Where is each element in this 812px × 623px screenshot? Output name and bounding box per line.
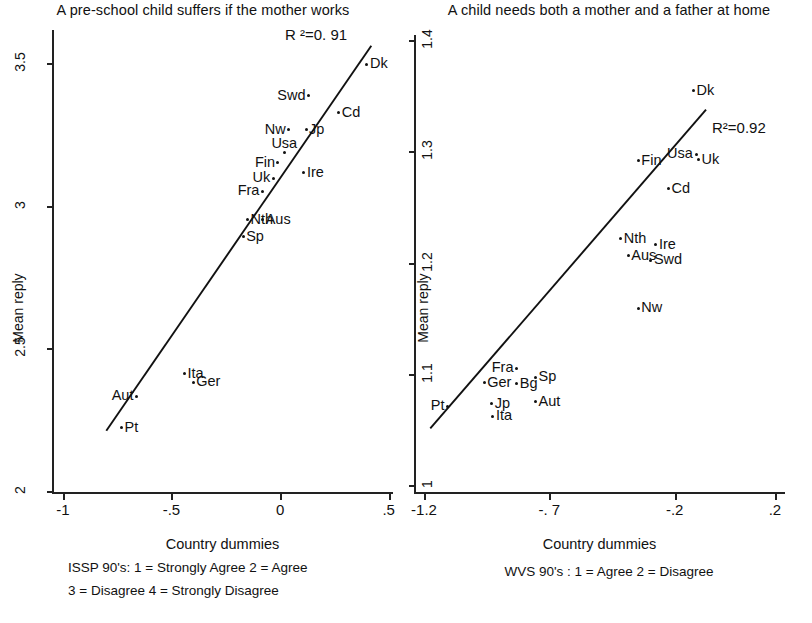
- data-point-label: Fra: [492, 360, 514, 375]
- data-point-label: Pt: [431, 398, 445, 413]
- data-point-label: Nth: [624, 231, 647, 246]
- data-point-label: Usa: [271, 136, 297, 151]
- data-point-label: Fra: [238, 183, 260, 198]
- data-point-label: Cd: [342, 105, 361, 120]
- data-point-label: Sp: [246, 229, 264, 244]
- data-point-label: Cd: [671, 181, 690, 196]
- data-point-label: Swd: [654, 252, 682, 267]
- data-point-marker: [261, 190, 264, 193]
- data-point-label: Aus: [631, 248, 656, 263]
- data-point-marker: [695, 153, 698, 156]
- two-panel-scatter-figure: A pre-school child suffers if the mother…: [0, 0, 812, 623]
- data-point-marker: [637, 307, 640, 310]
- panel-right: A child needs both a mother and a father…: [406, 0, 812, 623]
- data-point-marker: [242, 235, 245, 238]
- data-point-label: Sp: [539, 369, 557, 384]
- data-point-label: Pt: [125, 420, 139, 435]
- panel-left: A pre-school child suffers if the mother…: [0, 0, 406, 623]
- data-point-marker: [272, 177, 275, 180]
- data-point-marker: [307, 94, 310, 97]
- data-point-label: Ire: [659, 237, 676, 252]
- data-point-label: Dk: [370, 56, 388, 71]
- data-point-label: Fin: [255, 155, 275, 170]
- data-point-label: Usa: [667, 146, 693, 161]
- data-point-label: Ire: [307, 165, 324, 180]
- data-point-label: Ger: [196, 374, 220, 389]
- data-point-label: Fin: [641, 153, 661, 168]
- data-point-label: Nw: [641, 300, 662, 315]
- data-point-label: Ger: [487, 375, 511, 390]
- data-point-label: Dk: [697, 83, 715, 98]
- data-point-marker: [192, 381, 195, 384]
- data-point-label: Aut: [539, 394, 561, 409]
- left-regression-line: [0, 0, 406, 623]
- data-point-label: Aut: [112, 388, 134, 403]
- data-point-label: Ita: [496, 408, 512, 423]
- data-point-label: Uk: [702, 152, 720, 167]
- data-point-label: Aus: [266, 212, 291, 227]
- data-point-label: Jp: [309, 122, 324, 137]
- right-regression-line: [406, 0, 812, 623]
- data-point-label: Swd: [277, 88, 305, 103]
- data-point-label: Bg: [520, 376, 538, 391]
